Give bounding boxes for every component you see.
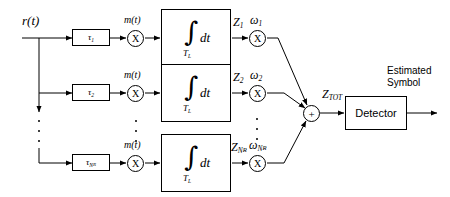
multiplier-2: X — [127, 85, 144, 102]
total-output-label: ZTOT — [322, 88, 342, 102]
output-label: Estimated Symbol — [387, 65, 431, 88]
multiplier-1: X — [127, 30, 144, 47]
weight-2-label: ω2 — [250, 69, 262, 83]
weight-1-label: ω1 — [250, 14, 262, 28]
ellipsis-weight-column — [251, 116, 263, 142]
weight-multiplier-1: X — [249, 30, 266, 47]
integral-differential-1: dt — [200, 30, 210, 46]
integrator-block-1: ∫ dt TL — [161, 9, 231, 67]
integral-differential-2: dt — [200, 85, 210, 101]
output-label-line2: Symbol — [387, 77, 431, 89]
integral-lower-limit-2: TL — [183, 103, 191, 114]
input-signal-label: r(t) — [22, 14, 39, 27]
delay-block-2: τ2 — [72, 84, 110, 101]
branch-n-output-label: ZNR — [231, 141, 247, 155]
multiplier-n-glyph: X — [132, 158, 139, 169]
integral-lower-limit-n: TL — [183, 173, 191, 184]
branch-1-output-label: Z1 — [233, 16, 243, 30]
weight-multiplier-n: X — [249, 155, 266, 172]
delay-block-n-label: τNR — [86, 157, 96, 168]
integral-sign-1: ∫ — [184, 18, 198, 45]
rake-receiver-diagram: r(t) τ1 m(t) X ∫ dt TL Z1 ω1 X τ2 m(t) X… — [0, 0, 450, 197]
integrator-block-n: ∫ dt TL — [161, 134, 231, 192]
output-label-line1: Estimated — [387, 65, 431, 77]
integral-differential-n: dt — [200, 155, 210, 171]
integrator-block-2: ∫ dt TL — [161, 64, 231, 122]
multiplier-2-glyph: X — [132, 88, 139, 99]
integral-sign-n: ∫ — [184, 143, 198, 170]
summing-junction: + — [303, 105, 320, 122]
detector-label: Detector — [355, 107, 397, 119]
multiplier-1-glyph: X — [132, 33, 139, 44]
integral-sign-2: ∫ — [184, 73, 198, 100]
summing-junction-glyph: + — [308, 108, 314, 120]
weight-multiplier-n-glyph: X — [254, 158, 261, 169]
delay-block-1-label: τ1 — [88, 32, 94, 43]
integral-lower-limit-1: TL — [183, 48, 191, 59]
branch-2-output-label: Z2 — [233, 71, 243, 85]
detector-block: Detector — [345, 96, 407, 130]
delay-block-2-label: τ2 — [88, 87, 94, 98]
branch-2-signal-label: m(t) — [124, 70, 141, 80]
branch-1-signal-label: m(t) — [124, 15, 141, 25]
weight-multiplier-2: X — [249, 85, 266, 102]
weight-multiplier-1-glyph: X — [254, 33, 261, 44]
weight-multiplier-2-glyph: X — [254, 88, 261, 99]
delay-block-1: τ1 — [72, 29, 110, 46]
ellipsis-multiplier-column — [130, 118, 142, 144]
ellipsis-input-trunk — [33, 118, 45, 144]
delay-block-n: τNR — [72, 154, 110, 171]
multiplier-n: X — [127, 155, 144, 172]
